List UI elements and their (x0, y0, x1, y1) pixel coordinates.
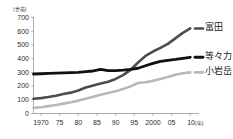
series-line-0 (34, 28, 191, 98)
legend-label: 小岩岳 (205, 67, 232, 76)
y-tick-label: 700 (7, 14, 29, 21)
x-tick-label: 05 (160, 119, 184, 126)
series-line-2 (34, 72, 191, 107)
legend-label: 等々力 (205, 52, 232, 61)
chart-axes (31, 17, 199, 116)
series-line-1 (34, 57, 191, 74)
y-tick-label: 0 (7, 110, 29, 117)
y-tick-label: 500 (7, 41, 29, 48)
y-tick-label: 400 (7, 55, 29, 62)
legend-label: 富田 (205, 23, 223, 32)
x-tick-label: 10(年) (183, 119, 207, 127)
y-tick-label: 200 (7, 82, 29, 89)
y-tick-label: 300 (7, 69, 29, 76)
x-axis-unit-label: (年) (195, 120, 203, 126)
y-tick-label: 100 (7, 96, 29, 103)
legend-swatches (195, 28, 203, 72)
chart-series-lines (34, 28, 191, 107)
line-chart: (世帯) 7006005004003002001000 197075808590… (0, 0, 233, 139)
y-tick-label: 600 (7, 28, 29, 35)
